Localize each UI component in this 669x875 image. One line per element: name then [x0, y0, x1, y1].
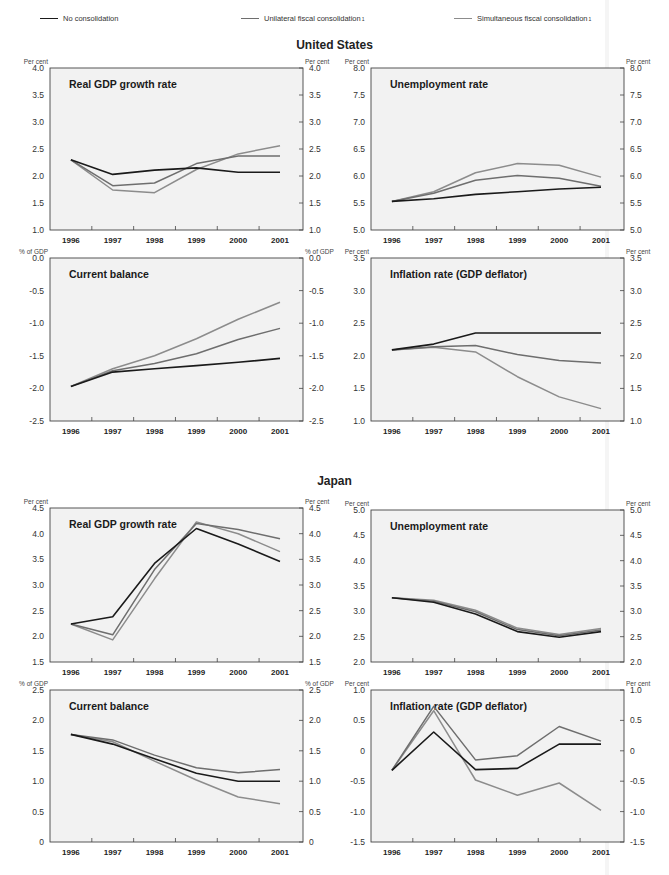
y-axis-unit-right: Per cent: [626, 58, 650, 65]
y-tick-label-right: 2.5: [309, 144, 321, 154]
y-tick-label-right: 5.0: [630, 225, 642, 235]
y-axis-unit-left: Per cent: [345, 500, 369, 507]
chart-svg: 1.51.52.02.02.52.53.03.03.53.54.04.04.54…: [0, 492, 353, 688]
y-tick-label-left: 2.0: [353, 657, 365, 667]
y-tick-label-left: 1.0: [353, 416, 365, 426]
x-tick-label: 1997: [104, 427, 122, 436]
y-tick-label-right: 2.0: [309, 631, 321, 641]
y-tick-label-left: 2.5: [32, 144, 44, 154]
chart-title: Real GDP growth rate: [69, 78, 177, 90]
y-tick-label-right: 2.5: [630, 632, 642, 642]
legend-label: Simultaneous fiscal consolidation: [477, 14, 587, 23]
y-tick-label-left: 3.5: [32, 554, 44, 564]
x-tick-label: 1997: [425, 427, 443, 436]
y-tick-label-right: 4.0: [630, 556, 642, 566]
chart-jp-current-balance: 000.50.51.01.01.51.52.02.02.52.5% of GDP…: [0, 674, 353, 868]
x-tick-label: 2000: [550, 848, 568, 857]
chart-title: Real GDP growth rate: [69, 518, 177, 530]
y-tick-label-left: 4.0: [353, 556, 365, 566]
y-tick-label-left: 2.5: [353, 318, 365, 328]
y-tick-label-left: 2.0: [32, 171, 44, 181]
y-tick-label-right: 1.0: [630, 416, 642, 426]
legend-swatch-unilateral: [241, 18, 259, 19]
y-tick-label-left: 1.5: [32, 746, 44, 756]
y-tick-label-left: 1.5: [32, 657, 44, 667]
chart-svg: -1.5-1.5-1.0-1.0-0.5-0.5000.50.51.01.0Pe…: [321, 674, 669, 868]
y-tick-label-left: 3.5: [32, 90, 44, 100]
y-axis-unit-right: Per cent: [626, 500, 650, 507]
chart-svg: -2.5-2.5-2.0-2.0-1.5-1.5-1.0-1.0-0.5-0.5…: [0, 242, 353, 447]
y-tick-label-left: 6.0: [353, 171, 365, 181]
y-tick-label-left: 2.5: [353, 632, 365, 642]
y-tick-label-left: 3.0: [353, 286, 365, 296]
chart-us-inflation: 1.01.01.51.52.02.02.52.53.03.03.53.5Per …: [321, 242, 669, 447]
plot-area: [371, 68, 624, 230]
y-tick-label-right: 2.5: [630, 318, 642, 328]
y-tick-label-right: 0: [630, 746, 635, 756]
y-tick-label-right: 3.0: [630, 286, 642, 296]
chart-jp-inflation: -1.5-1.5-1.0-1.0-0.5-0.5000.50.51.01.0Pe…: [321, 674, 669, 868]
x-tick-label: 1998: [467, 848, 485, 857]
chart-title: Current balance: [69, 700, 149, 712]
y-tick-label-right: 2.0: [309, 715, 321, 725]
y-axis-unit-left: Per cent: [345, 58, 369, 65]
y-tick-label-left: 1.0: [32, 776, 44, 786]
chart-jp-unemployment: 2.02.02.52.53.03.03.53.54.04.04.54.55.05…: [321, 494, 669, 688]
y-axis-unit-right: Per cent: [626, 248, 650, 255]
y-tick-label-left: 5.5: [353, 198, 365, 208]
y-tick-label-left: -1.5: [350, 837, 365, 847]
y-tick-label-right: 4.0: [309, 529, 321, 539]
y-tick-label-left: 1.5: [353, 383, 365, 393]
y-tick-label-right: 1.0: [309, 776, 321, 786]
x-tick-label: 1996: [383, 427, 401, 436]
y-tick-label-right: 3.5: [309, 90, 321, 100]
y-tick-label-right: 6.0: [630, 171, 642, 181]
y-tick-label-left: -0.5: [350, 776, 365, 786]
y-tick-label-right: 3.0: [309, 580, 321, 590]
y-tick-label-left: -2.0: [29, 383, 44, 393]
y-tick-label-right: -1.0: [630, 807, 645, 817]
y-tick-label-left: 2.0: [353, 351, 365, 361]
x-tick-label: 1997: [425, 848, 443, 857]
chart-jp-gdp: 1.51.52.02.02.52.53.03.03.53.54.04.04.54…: [0, 492, 353, 688]
y-tick-label-right: 5.5: [630, 198, 642, 208]
y-tick-label-left: 3.5: [353, 581, 365, 591]
x-tick-label: 1999: [187, 848, 205, 857]
chart-title: Current balance: [69, 268, 149, 280]
y-tick-label-right: 2.0: [630, 351, 642, 361]
y-tick-label-right: 1.5: [309, 746, 321, 756]
y-tick-label-right: -0.5: [630, 776, 645, 786]
y-tick-label-right: 0.5: [309, 807, 321, 817]
chart-svg: 1.01.01.51.52.02.02.52.53.03.03.53.54.04…: [0, 52, 353, 256]
x-tick-label: 2001: [592, 848, 610, 857]
x-tick-label: 2000: [550, 427, 568, 436]
legend-label: Unilateral fiscal consolidation: [264, 14, 361, 23]
legend-item-no-consolidation: No consolidation: [40, 14, 118, 23]
y-tick-label-right: 2.0: [309, 171, 321, 181]
section-title-united-states: United States: [0, 38, 669, 52]
y-tick-label-left: 0.5: [32, 807, 44, 817]
legend-item-simultaneous: Simultaneous fiscal consolidation1: [454, 14, 591, 23]
x-tick-label: 1999: [508, 427, 526, 436]
y-tick-label-right: 3.5: [630, 581, 642, 591]
y-tick-label-right: 1.5: [309, 657, 321, 667]
x-tick-label: 2000: [229, 427, 247, 436]
y-axis-unit-left: % of GDP: [19, 680, 48, 687]
x-tick-label: 1998: [467, 427, 485, 436]
y-tick-label-left: 0.5: [353, 715, 365, 725]
y-tick-label-left: 2.5: [32, 606, 44, 616]
y-axis-unit-right: Per cent: [626, 680, 650, 687]
y-tick-label-right: 0.5: [630, 715, 642, 725]
chart-us-gdp: 1.01.01.51.52.02.02.52.53.03.03.53.54.04…: [0, 52, 353, 256]
plot-area: [371, 690, 624, 842]
y-tick-label-left: -1.0: [350, 807, 365, 817]
y-tick-label-right: 3.0: [309, 117, 321, 127]
y-tick-label-right: 3.0: [630, 606, 642, 616]
y-tick-label-right: 3.5: [309, 554, 321, 564]
x-tick-label: 2001: [592, 427, 610, 436]
y-tick-label-right: 7.5: [630, 90, 642, 100]
chart-title: Unemployment rate: [390, 78, 488, 90]
y-tick-label-left: 2.0: [32, 631, 44, 641]
y-tick-label-left: 1.5: [32, 198, 44, 208]
y-tick-label-right: 6.5: [630, 144, 642, 154]
